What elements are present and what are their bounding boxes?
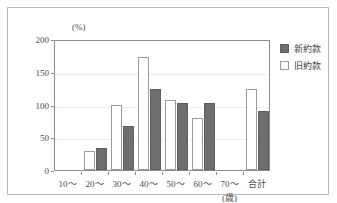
bar-old xyxy=(138,57,149,170)
y-axis-tick-label: 50 xyxy=(40,133,49,143)
x-axis-tick-mark xyxy=(135,172,136,175)
x-axis-tick-mark xyxy=(81,172,82,175)
bar-group xyxy=(55,41,82,170)
x-axis-tick-mark xyxy=(162,172,163,175)
legend-label-new: 新約款 xyxy=(294,42,321,55)
bar-new xyxy=(123,126,134,170)
y-axis-unit-label: (%) xyxy=(72,22,86,32)
bar-group xyxy=(163,41,190,170)
x-axis-tick-label: 20～ xyxy=(86,177,104,190)
x-axis-tick-label: 10～ xyxy=(59,177,77,190)
bar-new xyxy=(96,148,107,170)
bar-new xyxy=(258,111,269,170)
legend-label-old: 旧約款 xyxy=(294,59,321,72)
y-axis-tick-label: 100 xyxy=(36,101,50,111)
bar-new xyxy=(177,103,188,170)
x-axis-tick-label: 60～ xyxy=(194,177,212,190)
x-axis-tick-label: 70～ xyxy=(221,177,239,190)
bar-group-container xyxy=(55,41,269,170)
x-axis-tick-label: 50～ xyxy=(167,177,185,190)
bar-old xyxy=(111,105,122,171)
chart-figure: (%) 050100150200 (歳) 10～20～30～40～50～60～7… xyxy=(7,7,329,195)
y-axis-tick-group: 050100150200 xyxy=(8,8,54,203)
y-axis-tick-label: 200 xyxy=(36,35,50,45)
bar-new xyxy=(150,89,161,170)
legend-swatch-open-white-square-icon xyxy=(280,61,289,70)
x-axis-tick-label: 合計 xyxy=(248,177,266,190)
y-axis-tick-label: 150 xyxy=(36,68,50,78)
chart-legend: 新約款 旧約款 xyxy=(280,41,337,75)
bar-group xyxy=(244,41,271,170)
bar-old xyxy=(84,151,95,170)
bar-old xyxy=(246,89,257,170)
x-axis-tick-mark xyxy=(243,172,244,175)
legend-item-new: 新約款 xyxy=(280,41,337,55)
bar-group xyxy=(190,41,217,170)
bar-new xyxy=(204,103,215,170)
x-axis-tick-group: (歳) 10～20～30～40～50～60～70～合計 xyxy=(54,172,270,203)
legend-item-old: 旧約款 xyxy=(280,58,337,72)
plot-area xyxy=(54,40,270,171)
bar-group xyxy=(82,41,109,170)
bar-group xyxy=(109,41,136,170)
bar-old xyxy=(192,118,203,170)
bar-old xyxy=(165,100,176,170)
x-axis-tick-mark xyxy=(189,172,190,175)
legend-swatch-filled-dark-square-icon xyxy=(280,44,289,53)
x-axis-tick-mark xyxy=(108,172,109,175)
x-axis-tick-label: 30～ xyxy=(113,177,131,190)
x-axis-tick-mark xyxy=(216,172,217,175)
y-axis-tick-label: 0 xyxy=(45,166,50,176)
bar-group xyxy=(217,41,244,170)
x-axis-tick-label: 40～ xyxy=(140,177,158,190)
bar-group xyxy=(136,41,163,170)
x-axis-unit-label: (歳) xyxy=(222,191,237,203)
